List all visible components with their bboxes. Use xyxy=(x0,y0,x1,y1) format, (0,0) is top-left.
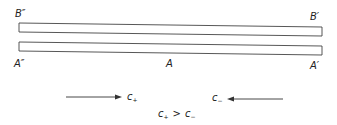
label-a: A xyxy=(165,58,173,69)
arrow-left xyxy=(227,97,283,102)
label-b-prime: B′ xyxy=(310,11,320,22)
bar-bottom xyxy=(19,42,322,55)
label-c-minus: c− xyxy=(212,92,223,104)
bar-top xyxy=(19,23,322,36)
label-a-prime: A′ xyxy=(309,60,320,71)
diagram: B″ B′ A″ A A′ c+ c− c+>c− xyxy=(0,0,337,125)
label-c-plus: c+ xyxy=(127,91,138,103)
arrow-right xyxy=(66,95,122,100)
label-b-double-prime: B″ xyxy=(15,8,26,19)
relation: c+>c− xyxy=(158,108,195,120)
label-a-double-prime: A″ xyxy=(13,58,25,69)
